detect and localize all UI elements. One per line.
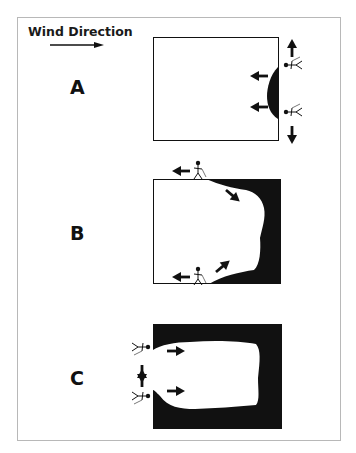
person-icon (132, 343, 150, 355)
arrow-up-icon (137, 369, 147, 387)
panel-b (154, 161, 282, 285)
person-icon (284, 57, 302, 69)
arrow-up-icon (287, 39, 297, 57)
arrow-down-icon (287, 126, 297, 144)
panel-a (154, 38, 303, 145)
panel-c (132, 324, 282, 429)
person-icon (284, 104, 302, 116)
person-icon (194, 161, 206, 179)
diagram-canvas (0, 0, 356, 453)
arrow-left-icon (172, 166, 190, 176)
person-icon (132, 392, 150, 404)
